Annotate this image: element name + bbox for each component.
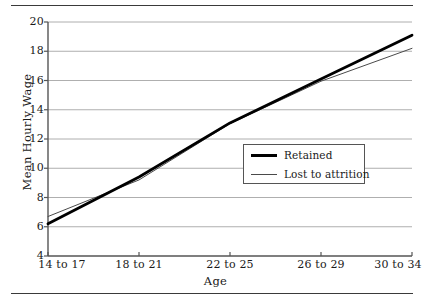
x-axis-tick-label: 30 to 34 (374, 259, 422, 271)
x-axis-tick-label: 14 to 17 (38, 259, 86, 271)
x-axis-tick-label: 18 to 21 (115, 259, 163, 271)
legend-line-swatch-thick (251, 154, 277, 157)
y-axis-title: Mean Hourly Wage (20, 62, 34, 202)
chart-legend: Retained Lost to attrition (243, 144, 365, 184)
x-axis-title: Age (0, 274, 431, 288)
legend-line-swatch-thin (251, 174, 277, 175)
x-axis-tick-labels: 14 to 1718 to 2122 to 2526 to 2930 to 34 (0, 0, 431, 303)
x-axis-tick-label: 26 to 29 (297, 259, 345, 271)
legend-item-retained: Retained (244, 146, 364, 165)
x-axis-tick-label: 22 to 25 (206, 259, 254, 271)
figure: 468101214161820 14 to 1718 to 2122 to 25… (0, 0, 431, 303)
legend-item-lost-to-attrition: Lost to attrition (244, 165, 364, 184)
legend-label: Lost to attrition (284, 169, 370, 180)
legend-label: Retained (284, 150, 332, 161)
